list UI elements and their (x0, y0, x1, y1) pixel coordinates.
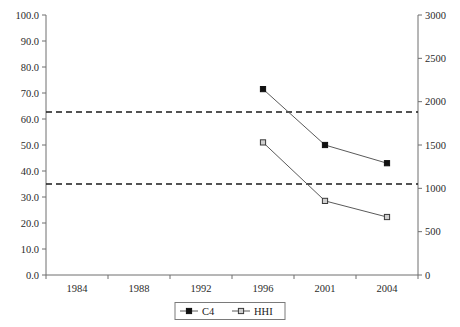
x-axis-tick-label: 2001 (315, 283, 336, 294)
left-axis-tick-label: 100.0 (15, 10, 39, 21)
x-axis-tick-label: 1996 (253, 283, 274, 294)
legend-marker-c4 (186, 308, 191, 313)
right-axis-tick-label: 1500 (425, 140, 446, 151)
left-axis-tick-label: 70.0 (21, 88, 39, 99)
left-axis: 0.010.020.030.040.050.060.070.080.090.01… (15, 10, 46, 281)
right-axis: 050010001500200025003000 (418, 10, 446, 281)
right-axis-tick-label: 2500 (425, 53, 446, 64)
legend-label-hhi: HHI (254, 306, 273, 317)
left-axis-tick-label: 40.0 (21, 166, 39, 177)
left-axis-tick-label: 30.0 (21, 192, 39, 203)
left-axis-tick-label: 60.0 (21, 114, 39, 125)
left-axis-tick-label: 0.0 (26, 270, 39, 281)
data-point-hhi (260, 140, 265, 145)
chart-legend: C4HHI (175, 303, 285, 320)
legend-label-c4: C4 (202, 306, 215, 317)
x-axis-tick-label: 1984 (67, 283, 89, 294)
x-axis: 198419881992199620012004 (46, 275, 418, 294)
right-axis-tick-label: 3000 (425, 10, 446, 21)
left-axis-tick-label: 90.0 (21, 36, 39, 47)
left-axis-tick-label: 10.0 (21, 244, 39, 255)
data-point-hhi (322, 198, 327, 203)
x-axis-tick-label: 2004 (377, 283, 399, 294)
data-point-c4 (260, 87, 265, 92)
chart-canvas: 0.010.020.030.040.050.060.070.080.090.01… (0, 0, 460, 327)
left-axis-tick-label: 50.0 (21, 140, 39, 151)
left-axis-tick-label: 20.0 (21, 218, 39, 229)
left-axis-tick-label: 80.0 (21, 62, 39, 73)
legend-marker-hhi (238, 308, 243, 313)
right-axis-tick-label: 0 (425, 270, 430, 281)
data-point-c4 (322, 142, 327, 147)
right-axis-tick-label: 2000 (425, 96, 446, 107)
x-axis-tick-label: 1988 (129, 283, 150, 294)
x-axis-tick-label: 1992 (191, 283, 212, 294)
right-axis-tick-label: 500 (425, 226, 441, 237)
data-point-hhi (384, 214, 389, 219)
plot-background (46, 15, 418, 275)
data-point-c4 (384, 161, 389, 166)
right-axis-tick-label: 1000 (425, 183, 446, 194)
chart-container: 0.010.020.030.040.050.060.070.080.090.01… (0, 0, 460, 327)
